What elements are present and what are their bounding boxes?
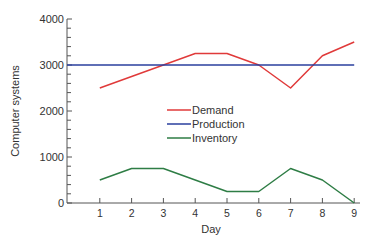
- series-inventory: [100, 169, 354, 204]
- x-tick-label: 5: [224, 207, 230, 219]
- x-axis-label: Day: [201, 223, 221, 235]
- x-tick-label: 2: [129, 207, 135, 219]
- x-tick-label: 6: [256, 207, 262, 219]
- y-tick-label: 1000: [40, 151, 64, 163]
- axes: 01000200030004000123456789: [40, 13, 360, 219]
- x-tick-label: 3: [160, 207, 166, 219]
- legend-label: Production: [192, 118, 245, 130]
- legend-label: Demand: [192, 104, 234, 116]
- x-tick-label: 8: [319, 207, 325, 219]
- line-chart: 01000200030004000123456789 DemandProduct…: [0, 0, 378, 245]
- legend: DemandProductionInventory: [167, 104, 245, 144]
- x-tick-label: 1: [97, 207, 103, 219]
- y-tick-label: 2000: [40, 105, 64, 117]
- y-tick-label: 0: [58, 197, 64, 209]
- x-tick-label: 4: [192, 207, 198, 219]
- x-tick-label: 9: [351, 207, 357, 219]
- y-tick-label: 4000: [40, 13, 64, 25]
- y-tick-label: 3000: [40, 59, 64, 71]
- legend-label: Inventory: [192, 132, 238, 144]
- x-tick-label: 7: [288, 207, 294, 219]
- y-axis-label: Computer systems: [9, 65, 21, 157]
